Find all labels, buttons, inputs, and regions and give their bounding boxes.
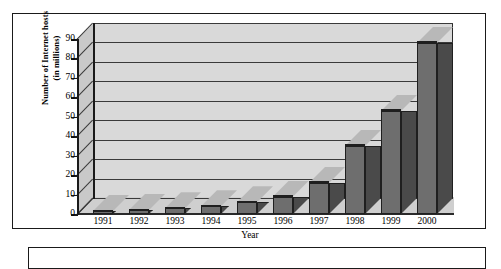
y-axis-line-back	[93, 23, 95, 199]
bar-front-face	[417, 43, 437, 214]
x-tick-label-1998: 1998	[335, 215, 375, 227]
y-tick-label-50: 50	[47, 112, 75, 122]
y-tick-label-10: 10	[47, 190, 75, 200]
bar-1999	[381, 111, 401, 214]
bar-top-edge	[309, 181, 329, 183]
bar-front-face	[381, 111, 401, 214]
bar-top-edge	[381, 109, 401, 111]
y-tick-label-40: 40	[47, 131, 75, 141]
bar-1997	[309, 183, 329, 214]
x-axis-title: Year	[13, 230, 487, 240]
figure-panel: Number of Internet hosts (in millions) 0…	[12, 13, 486, 229]
plot-area	[13, 14, 487, 230]
bar-1996	[273, 197, 293, 215]
x-tick-label-1994: 1994	[191, 215, 231, 227]
bar-top-edge	[165, 207, 185, 209]
y-tick-label-80: 80	[47, 53, 75, 63]
bar-side-face	[437, 43, 453, 214]
bar-front-face	[309, 183, 329, 214]
y-tick-label-90: 90	[47, 34, 75, 44]
bar-top-edge	[237, 201, 257, 203]
bar-front-face	[165, 208, 185, 214]
bar-1992	[129, 210, 149, 214]
bar-1993	[165, 208, 185, 214]
gridline-70	[93, 62, 453, 63]
x-tick-label-2000: 2000	[407, 215, 447, 227]
bar-side-face	[401, 111, 417, 214]
bar-1998	[345, 146, 365, 214]
bar-2000	[417, 43, 437, 214]
x-tick-label-1996: 1996	[263, 215, 303, 227]
bar-1991	[93, 211, 113, 214]
bar-top-edge	[129, 209, 149, 211]
bar-top-edge	[345, 144, 365, 146]
x-tick-label-1995: 1995	[227, 215, 267, 227]
x-tick-label-1993: 1993	[155, 215, 195, 227]
gridline-90	[93, 23, 453, 24]
y-tick-label-20: 20	[47, 170, 75, 180]
x-tick-label-1999: 1999	[371, 215, 411, 227]
y-tick-label-60: 60	[47, 92, 75, 102]
bar-front-face	[93, 211, 113, 214]
bar-top-edge	[417, 41, 437, 43]
secondary-empty-panel	[28, 247, 486, 269]
bar-top-edge	[201, 205, 221, 207]
x-tick-label-1991: 1991	[83, 215, 123, 227]
x-axis-tick-labels: 1991199219931994199519961997199819992000	[13, 215, 487, 231]
x-tick-label-1997: 1997	[299, 215, 339, 227]
bar-front-face	[345, 146, 365, 214]
x-tick-label-1992: 1992	[119, 215, 159, 227]
y-tick-label-30: 30	[47, 151, 75, 161]
bar-front-face	[273, 197, 293, 215]
y-tick-label-70: 70	[47, 73, 75, 83]
bar-top-edge	[93, 210, 113, 212]
gridline-60	[93, 81, 453, 82]
bar-front-face	[129, 210, 149, 214]
bar-top-edge	[273, 195, 293, 197]
bar-front-face	[237, 202, 257, 214]
y-axis-line	[77, 39, 79, 215]
bar-1995	[237, 202, 257, 214]
bar-1994	[201, 206, 221, 214]
y-axis-tick-labels: 0102030405060708090	[47, 14, 75, 230]
gridline-80	[93, 42, 453, 43]
bar-front-face	[201, 206, 221, 214]
